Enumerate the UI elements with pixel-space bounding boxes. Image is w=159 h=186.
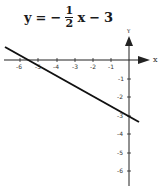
x-tick-label: -2	[90, 63, 96, 70]
y-tick-label: -4	[117, 130, 123, 137]
x-tick-label: -1	[108, 63, 114, 70]
x-tick-label: -3	[72, 63, 78, 70]
x-tick-label: -4	[53, 63, 59, 70]
x-axis-label: x	[153, 55, 158, 64]
x-axis-arrow-icon	[138, 56, 150, 64]
x-tick-label: -6	[16, 63, 22, 70]
chart-plot: x Y -6 -5 -4 -3 -2 -1 -1 -2 -3 -4 -5 -6	[0, 0, 159, 186]
line-series	[5, 47, 139, 122]
y-tick-label: -6	[117, 167, 123, 174]
y-tick-label: -2	[117, 93, 123, 100]
y-tick-label: -1	[118, 75, 124, 82]
y-axis-arrow-icon	[125, 36, 133, 46]
y-axis-label: Y	[126, 28, 131, 34]
y-tick-label: -5	[117, 149, 123, 156]
